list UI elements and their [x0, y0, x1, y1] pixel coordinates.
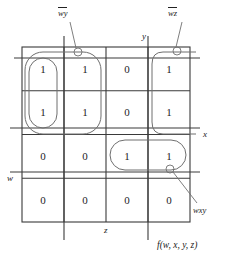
cell-r1c4: 1	[148, 63, 190, 75]
axis-label-y: y	[142, 31, 146, 41]
cell-r4c2: 0	[64, 194, 106, 206]
callout-circle-wbar-zbar	[173, 47, 181, 55]
cell-r3c2: 0	[64, 150, 106, 162]
overbar-z-1: z	[174, 8, 177, 18]
cell-r3c1: 0	[22, 150, 64, 162]
group-label-wbar-zbar: wz	[168, 8, 177, 18]
cell-r2c4: 1	[148, 106, 190, 118]
kmap-canvas	[0, 0, 227, 259]
cell-r2c1: 1	[22, 106, 64, 118]
cell-r4c1: 0	[22, 194, 64, 206]
group-label-wbar-ybar: wy	[58, 8, 67, 18]
cell-r3c3: 1	[106, 150, 148, 162]
callout-leader-wbar-ybar	[70, 22, 76, 48]
axis-label-z: z	[104, 225, 108, 235]
axis-label-w: w	[7, 173, 13, 183]
cell-r2c2: 1	[64, 106, 106, 118]
axis-label-x: x	[203, 129, 207, 139]
karnaugh-map-diagram: 1 1 0 1 1 1 0 1 0 0 1 1 0 0 0 0 y x w z …	[0, 0, 227, 259]
cell-r1c3: 0	[106, 63, 148, 75]
cell-r1c1: 1	[22, 63, 64, 75]
function-label: f(w, x, y, z)	[157, 240, 197, 250]
cell-r4c4: 0	[148, 194, 190, 206]
overbar-y-1: y	[64, 8, 68, 18]
cell-r2c3: 0	[106, 106, 148, 118]
callout-leader-wbar-zbar	[176, 22, 182, 47]
cell-r3c4: 1	[148, 150, 190, 162]
group-label-wxy: wxy	[193, 205, 206, 215]
cell-r1c2: 1	[64, 63, 106, 75]
cell-r4c3: 0	[106, 194, 148, 206]
